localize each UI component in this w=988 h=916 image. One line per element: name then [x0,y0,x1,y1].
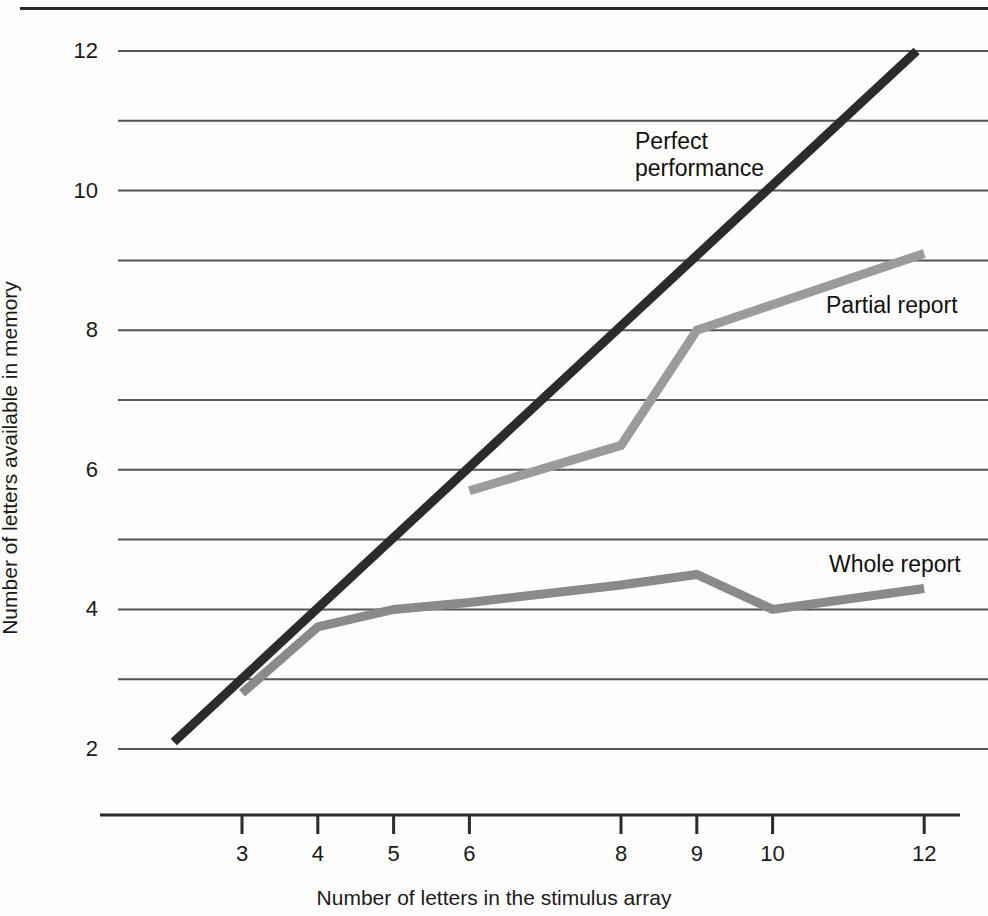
series-lines-group [174,51,924,742]
chart-plot-area [0,0,988,916]
chart-figure: 24681012 3456891012 Number of letters av… [0,0,988,916]
y-tick-label: 12 [58,38,98,64]
x-tick-marks-group [242,815,924,834]
x-tick-label: 5 [387,841,399,867]
x-tick-label: 8 [615,841,627,867]
y-tick-label: 6 [58,457,98,483]
y-tick-label: 10 [58,178,98,204]
x-tick-label: 6 [463,841,475,867]
x-tick-label: 4 [312,841,324,867]
x-tick-label: 9 [691,841,703,867]
y-tick-label: 2 [58,736,98,762]
x-tick-label: 10 [760,841,784,867]
gridlines-group [118,51,988,749]
y-axis-title: Number of letters available in memory [0,281,22,635]
series-label-perfect-performance: Perfect performance [635,128,764,182]
series-line-partial-report [469,253,924,490]
series-line-whole-report [242,575,924,694]
x-tick-label: 3 [236,841,248,867]
series-label-whole-report: Whole report [829,551,961,578]
series-line-perfect-performance [174,51,917,742]
y-tick-label: 4 [58,596,98,622]
x-axis-title: Number of letters in the stimulus array [317,886,672,910]
y-tick-label: 8 [58,317,98,343]
x-tick-label: 12 [912,841,936,867]
series-label-partial-report: Partial report [826,292,958,319]
